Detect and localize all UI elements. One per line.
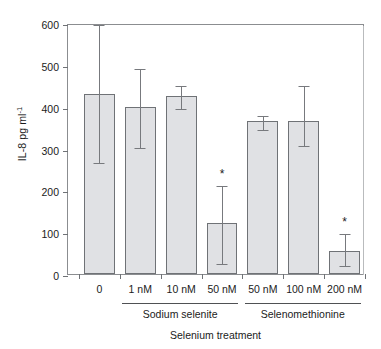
plot-area: 010020030040050060001 nM10 nM50 nM*50 nM…: [67, 24, 364, 275]
significance-marker: *: [220, 168, 225, 180]
y-axis-title-text: IL-8 pg ml: [16, 114, 28, 162]
group-label: Sodium selenite: [143, 309, 218, 320]
error-bar: [345, 234, 346, 265]
y-axis-tick-label: 600: [41, 20, 59, 31]
x-axis-tick-label: 50 nM: [248, 284, 277, 295]
error-bar-cap-lower: [94, 163, 105, 164]
x-axis-tick: [324, 274, 325, 279]
x-axis-tick-label: 200 nM: [327, 284, 362, 295]
error-bar-cap-upper: [94, 25, 105, 26]
x-axis-tick-label: 50 nM: [207, 284, 236, 295]
x-axis-tick: [161, 274, 162, 279]
error-bar-cap-lower: [257, 130, 268, 131]
error-bar-cap-lower: [176, 109, 187, 110]
bar-chart-figure: IL-8 pg ml-1 010020030040050060001 nM10 …: [0, 0, 381, 349]
y-axis-tick: [63, 109, 68, 110]
y-axis-tick-label: 200: [41, 187, 59, 198]
error-bar: [263, 116, 264, 129]
x-axis-tick-label: 0: [97, 284, 103, 295]
y-axis-tick-label: 100: [41, 229, 59, 240]
x-axis-tick: [202, 274, 203, 279]
error-bar-cap-upper: [298, 86, 309, 87]
error-bar-cap-lower: [298, 146, 309, 147]
y-axis-tick-label: 500: [41, 62, 59, 73]
x-axis-tick: [365, 274, 366, 279]
significance-marker: *: [342, 216, 347, 228]
error-bar: [222, 186, 223, 264]
error-bar-cap-lower: [217, 264, 228, 265]
x-axis-tick: [242, 274, 243, 279]
bar: [166, 96, 197, 274]
error-bar: [304, 86, 305, 147]
group-label: Selenomethionine: [261, 309, 345, 320]
error-bar-cap-upper: [339, 234, 350, 235]
error-bar-cap-upper: [217, 186, 228, 187]
x-axis-tick: [283, 274, 284, 279]
error-bar: [181, 86, 182, 109]
error-bar-cap-lower: [135, 148, 146, 149]
x-axis-tick-label: 10 nM: [167, 284, 196, 295]
y-axis-title: IL-8 pg ml-1: [16, 74, 28, 194]
error-bar-cap-upper: [176, 86, 187, 87]
y-axis-tick-label: 400: [41, 103, 59, 114]
error-bar: [99, 25, 100, 163]
bar: [247, 121, 278, 274]
y-axis-tick-label: 0: [53, 271, 59, 282]
x-axis-tick: [120, 274, 121, 279]
group-rule: [122, 303, 238, 304]
error-bar: [140, 69, 141, 148]
y-axis-tick: [63, 234, 68, 235]
y-axis-title-exponent: -1: [15, 107, 24, 114]
x-axis-tick-label: 1 nM: [129, 284, 152, 295]
y-axis-tick: [63, 151, 68, 152]
y-axis-tick: [63, 192, 68, 193]
group-rule: [245, 303, 361, 304]
x-axis-tick-label: 100 nM: [286, 284, 321, 295]
error-bar-cap-upper: [135, 69, 146, 70]
x-axis-tick: [79, 274, 80, 279]
error-bar-cap-upper: [257, 116, 268, 117]
y-axis-tick: [63, 67, 68, 68]
y-axis-tick: [63, 276, 68, 277]
y-axis-tick: [63, 25, 68, 26]
y-axis-tick-label: 300: [41, 145, 59, 156]
error-bar-cap-lower: [339, 266, 350, 267]
x-axis-title: Selenium treatment: [170, 330, 261, 341]
